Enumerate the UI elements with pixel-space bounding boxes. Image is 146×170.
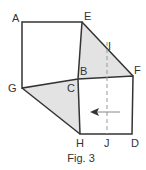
label-b: B: [80, 65, 87, 77]
square-bfdh: [78, 76, 133, 134]
label-g: G: [8, 82, 17, 94]
square-aebg: [22, 22, 82, 88]
label-e: E: [84, 10, 91, 22]
label-f: F: [134, 64, 141, 76]
label-c: C: [67, 82, 75, 94]
label-d: D: [131, 137, 139, 149]
figure-caption: Fig. 3: [67, 152, 95, 164]
geometry-figure: A E I B F G C H J D Fig. 3: [0, 0, 146, 170]
label-i: I: [108, 40, 111, 52]
label-j: J: [104, 137, 110, 149]
label-h: H: [76, 137, 84, 149]
label-a: A: [12, 12, 20, 24]
